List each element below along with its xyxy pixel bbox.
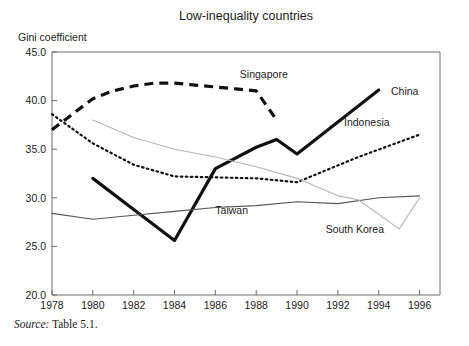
series-label-indonesia: Indonesia bbox=[344, 116, 390, 128]
x-tick-label: 1990 bbox=[285, 299, 309, 311]
x-tick-label: 1992 bbox=[326, 299, 350, 311]
y-tick-label: 30.0 bbox=[26, 192, 47, 204]
source-label: Source: bbox=[14, 318, 49, 330]
y-tick-label: 40.0 bbox=[26, 94, 47, 106]
x-tick-label: 1984 bbox=[163, 299, 187, 311]
x-tick-label: 1978 bbox=[40, 299, 64, 311]
series-line-south-korea bbox=[93, 120, 420, 229]
plot-frame bbox=[52, 52, 440, 295]
low-inequality-countries-chart: Low-inequality countries Gini coefficien… bbox=[0, 0, 469, 346]
y-tick-label: 25.0 bbox=[26, 240, 47, 252]
x-tick-label: 1994 bbox=[367, 299, 391, 311]
series-lines bbox=[52, 83, 420, 240]
y-axis-caption: Gini coefficient bbox=[18, 31, 87, 43]
series-line-singapore bbox=[52, 83, 277, 130]
x-tick-label: 1996 bbox=[408, 299, 432, 311]
series-label-china: China bbox=[391, 85, 419, 97]
chart-page: Low-inequality countries Gini coefficien… bbox=[0, 0, 469, 346]
x-axis-ticks: 1978198019821984198619881990199219941996 bbox=[40, 290, 431, 311]
source-text: Table 5.1. bbox=[52, 318, 98, 330]
chart-title: Low-inequality countries bbox=[179, 9, 313, 23]
y-tick-label: 45.0 bbox=[26, 46, 47, 58]
series-line-china bbox=[93, 90, 379, 241]
y-tick-label: 35.0 bbox=[26, 143, 47, 155]
x-tick-label: 1982 bbox=[122, 299, 146, 311]
x-tick-label: 1988 bbox=[245, 299, 269, 311]
source-note: Source: Table 5.1. bbox=[14, 318, 98, 330]
series-label-taiwan: Taiwan bbox=[215, 204, 248, 216]
series-label-south-korea: South Korea bbox=[326, 223, 385, 235]
series-label-singapore: Singapore bbox=[240, 68, 288, 80]
x-tick-label: 1986 bbox=[204, 299, 228, 311]
x-tick-label: 1980 bbox=[81, 299, 105, 311]
